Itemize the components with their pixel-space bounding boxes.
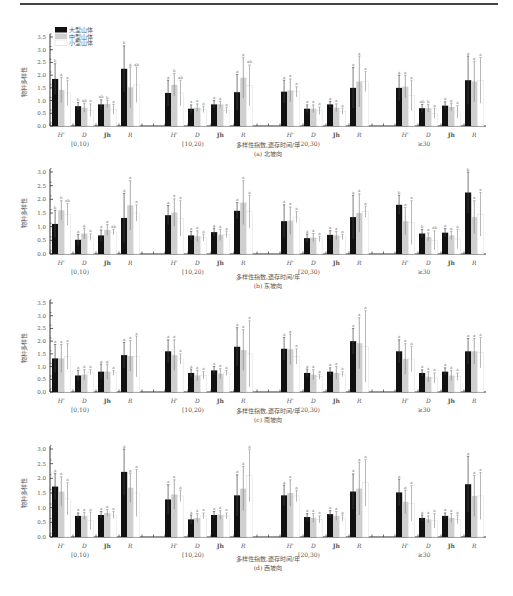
- significance-letter: b: [106, 95, 109, 100]
- bar-小型山体: [110, 232, 116, 254]
- significance-letter: a: [242, 324, 245, 329]
- group-label: ≥30: [418, 406, 431, 413]
- bar-小型山体: [110, 373, 116, 392]
- significance-letter: a: [329, 96, 332, 101]
- significance-letter: a: [129, 175, 132, 180]
- bar-小型山体: [200, 516, 206, 537]
- y-tick-label: 2.5: [37, 59, 46, 65]
- significance-letter: a: [473, 56, 476, 61]
- significance-letter: a: [225, 365, 228, 370]
- significance-letter: a: [352, 62, 355, 67]
- category-label: D: [194, 131, 200, 138]
- y-tick-label: 3.0: [37, 169, 46, 175]
- y-tick-label: 2.0: [37, 72, 46, 78]
- significance-letter: a: [421, 364, 424, 369]
- category-label: H': [401, 397, 409, 404]
- significance-letter: a: [352, 323, 355, 328]
- group-label: ≥30: [418, 140, 431, 147]
- y-tick-label: 1.5: [37, 490, 46, 496]
- significance-letter: a: [289, 201, 292, 206]
- legend-label: 小型山体: [69, 39, 93, 47]
- significance-letter: a: [358, 457, 361, 462]
- significance-letter: a: [444, 362, 447, 367]
- category-label: D: [310, 397, 316, 404]
- significance-letter: ab: [432, 225, 437, 230]
- significance-letter: a: [318, 369, 321, 374]
- x-axis-title: 多样性指数,遗存时间/年: [236, 273, 300, 281]
- category-label: H': [57, 131, 65, 138]
- significance-letter: a: [196, 508, 199, 513]
- category-label: Jh: [216, 131, 225, 139]
- significance-letter: a: [54, 468, 57, 473]
- significance-letter: a: [60, 72, 63, 77]
- significance-letter: a: [427, 366, 430, 371]
- category-label: D: [81, 259, 87, 266]
- page-top-rule: [20, 3, 498, 5]
- legend-swatch: [55, 27, 67, 33]
- y-axis-label: 物种多样性: [20, 198, 28, 228]
- category-label: Jh: [447, 542, 456, 550]
- category-label: R: [471, 259, 477, 266]
- significance-letter: a: [467, 451, 470, 456]
- bar-小型山体: [362, 212, 368, 254]
- significance-letter: a: [335, 98, 338, 103]
- significance-letter: a: [66, 75, 69, 80]
- group-label: [10,20): [182, 268, 204, 275]
- significance-letter: a: [358, 312, 361, 317]
- y-tick-label: 1.0: [37, 505, 46, 511]
- y-tick-label: 1.0: [37, 224, 46, 230]
- significance-letter: a: [190, 99, 193, 104]
- category-label: D: [425, 259, 431, 266]
- significance-letter: a: [106, 504, 109, 509]
- y-tick-label: 2.5: [37, 325, 46, 331]
- category-label: Jh: [103, 259, 112, 267]
- category-label: H': [286, 542, 294, 549]
- y-axis-label: 物种多样性: [20, 67, 28, 97]
- significance-letter: a: [66, 477, 69, 482]
- y-tick-label: 3.0: [37, 47, 46, 53]
- x-axis-title: 多样性指数,遗存时间/年: [236, 555, 300, 563]
- significance-letter: a: [473, 195, 476, 200]
- significance-letter: a: [89, 228, 92, 233]
- legend-swatch: [55, 40, 67, 46]
- category-label: R: [240, 397, 246, 404]
- group-label: [10,20): [182, 551, 204, 558]
- legend-swatch: [55, 34, 67, 40]
- y-tick-label: 0.0: [37, 123, 46, 129]
- significance-letter: ab: [82, 98, 87, 103]
- significance-letter: a: [456, 367, 459, 372]
- significance-letter: a: [295, 485, 298, 490]
- significance-letter: a: [427, 227, 430, 232]
- significance-letter: a: [473, 333, 476, 338]
- significance-letter: a: [225, 226, 228, 231]
- significance-letter: a: [306, 364, 309, 369]
- category-label: H': [170, 397, 178, 404]
- significance-letter: a: [364, 305, 367, 310]
- significance-letter: a: [196, 225, 199, 230]
- y-tick-label: 2.0: [37, 475, 46, 481]
- chart-panel-b: 0.00.51.01.52.02.53.0物种多样性bbabH'aaaDaaab…: [0, 160, 513, 310]
- significance-letter: a: [295, 81, 298, 86]
- significance-letter: a: [312, 508, 315, 513]
- significance-letter: a: [335, 361, 338, 366]
- significance-letter: a: [179, 485, 182, 490]
- significance-letter: a: [318, 101, 321, 106]
- category-label: H': [170, 259, 178, 266]
- significance-letter: a: [312, 228, 315, 233]
- significance-letter: a: [421, 510, 424, 515]
- significance-letter: a: [213, 223, 216, 228]
- significance-letter: b: [77, 97, 80, 102]
- y-tick-label: 1.5: [37, 351, 46, 357]
- significance-letter: b: [398, 190, 401, 195]
- category-label: R: [127, 131, 133, 138]
- significance-letter: a: [236, 69, 239, 74]
- significance-letter: a: [225, 102, 228, 107]
- significance-letter: a: [306, 508, 309, 513]
- y-tick-label: 2.0: [37, 338, 46, 344]
- significance-letter: a: [173, 474, 176, 479]
- significance-letter: ab: [178, 75, 183, 80]
- bar-大型山体: [442, 516, 448, 537]
- significance-letter: a: [398, 474, 401, 479]
- group-label: ≥30: [418, 268, 431, 275]
- x-axis-title: 多样性指数,遗存时间/年: [236, 407, 300, 415]
